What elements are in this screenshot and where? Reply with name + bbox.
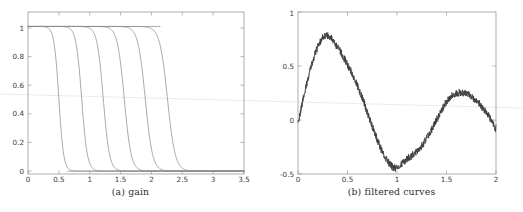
- background-artifact-line: [0, 94, 261, 101]
- gain-ytick-0: 0: [19, 167, 24, 176]
- gain-curve-3: [28, 26, 244, 171]
- panel-a-caption: (a) gain: [0, 186, 261, 197]
- gain-xtick-7: 3.5: [238, 175, 249, 184]
- figure-container: 0 0.5 1 1.5 2 2.5 3 3.5 0 0.2 0.4 0.6 0.…: [0, 0, 523, 212]
- gain-ytick-5: 1: [19, 24, 24, 33]
- filtered-ytick-2: 0.5: [283, 62, 294, 71]
- gain-x-ticklabels: 0 0.5 1 1.5 2 2.5 3 3.5: [26, 175, 250, 184]
- gain-y-tickmarks: [28, 28, 32, 171]
- gain-xtick-6: 3: [211, 175, 216, 184]
- gain-xtick-1: 0.5: [53, 175, 64, 184]
- gain-ytick-2: 0.4: [13, 109, 25, 118]
- gain-xtick-2: 1: [87, 175, 92, 184]
- filtered-signal-group: [298, 33, 496, 172]
- gain-x-tickmarks-top: [59, 12, 213, 16]
- gain-ytick-4: 0.8: [13, 52, 25, 61]
- gain-y-ticklabels: 0 0.2 0.4 0.6 0.8 1: [13, 24, 25, 176]
- filtered-signal-path: [298, 33, 496, 172]
- gain-curve-2: [28, 26, 244, 171]
- gain-curve-5: [28, 26, 244, 171]
- panel-filtered-curves: 0 0.5 1 1.5 2 -0.5 0 0.5 1 (b) filtered …: [261, 0, 522, 212]
- filtered-xtick-2: 1: [395, 175, 400, 184]
- filtered-x-ticklabels: 0 0.5 1 1.5 2: [296, 175, 499, 184]
- filtered-signal-envelope: [298, 36, 496, 168]
- filtered-y-tickmarks-right: [493, 66, 497, 120]
- filtered-ytick-0: -0.5: [280, 170, 294, 179]
- gain-y-tickmarks-right: [241, 28, 245, 142]
- gain-xtick-5: 2.5: [177, 175, 188, 184]
- filtered-x-tickmarks-top: [348, 12, 447, 16]
- gain-ytick-1: 0.2: [13, 138, 24, 147]
- filtered-xtick-1: 0.5: [342, 175, 353, 184]
- gain-xtick-3: 1.5: [115, 175, 126, 184]
- filtered-y-tickmarks: [298, 12, 302, 174]
- filtered-xtick-4: 2: [494, 175, 499, 184]
- panel-b-caption: (b) filtered curves: [261, 186, 522, 197]
- filtered-ytick-3: 1: [289, 9, 294, 18]
- gain-ytick-3: 0.6: [13, 81, 25, 90]
- filtered-x-tickmarks: [298, 171, 496, 175]
- panel-gain: 0 0.5 1 1.5 2 2.5 3 3.5 0 0.2 0.4 0.6 0.…: [0, 0, 261, 212]
- gain-curve-6: [28, 26, 244, 171]
- gain-plot-svg: 0 0.5 1 1.5 2 2.5 3 3.5 0 0.2 0.4 0.6 0.…: [0, 0, 261, 212]
- filtered-plot-svg: 0 0.5 1 1.5 2 -0.5 0 0.5 1: [261, 0, 522, 212]
- filtered-y-ticklabels: -0.5 0 0.5 1: [280, 9, 294, 179]
- gain-curve-4: [28, 26, 244, 171]
- filtered-ytick-1: 0: [289, 116, 294, 125]
- gain-curve-1: [28, 26, 244, 171]
- gain-xtick-0: 0: [26, 175, 31, 184]
- gain-xtick-4: 2: [149, 175, 154, 184]
- filtered-xtick-3: 1.5: [441, 175, 452, 184]
- filtered-xtick-0: 0: [296, 175, 301, 184]
- gain-curves-group: [28, 26, 244, 171]
